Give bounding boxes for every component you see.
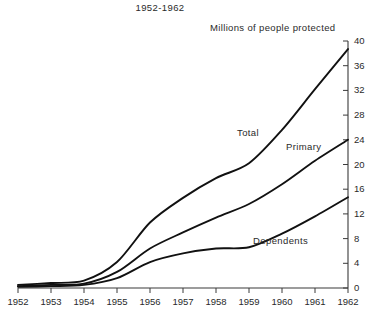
y-tick-label: 32 [354, 84, 365, 95]
series-annotation-total: Total [237, 127, 259, 138]
x-tick-label: 1952 [3, 296, 33, 307]
series-annotation-dependents: Dependents [253, 235, 308, 246]
y-tick-label: 16 [354, 183, 365, 194]
chart-axes [18, 41, 348, 293]
y-tick-label: 0 [354, 282, 359, 293]
y-tick-label: 28 [354, 109, 365, 120]
x-tick-label: 1961 [300, 296, 330, 307]
y-tick-label: 40 [354, 35, 365, 46]
chart-plot-area [0, 0, 383, 311]
x-tick-label: 1960 [267, 296, 297, 307]
y-tick-label: 36 [354, 60, 365, 71]
x-tick-label: 1956 [135, 296, 165, 307]
x-tick-label: 1953 [36, 296, 66, 307]
x-tick-label: 1954 [69, 296, 99, 307]
y-tick-label: 12 [354, 208, 365, 219]
y-tick-label: 8 [354, 233, 359, 244]
y-tick-label: 4 [354, 257, 359, 268]
y-tick-label: 24 [354, 134, 365, 145]
chart-series-lines [18, 49, 348, 287]
chart-page: 1952-1962 Millions of people protected 0… [0, 0, 383, 311]
x-axis-ticks [18, 288, 348, 293]
x-tick-label: 1962 [333, 296, 363, 307]
x-tick-label: 1957 [168, 296, 198, 307]
y-tick-label: 20 [354, 159, 365, 170]
x-tick-label: 1955 [102, 296, 132, 307]
y-axis-ticks [343, 41, 348, 288]
x-tick-label: 1958 [201, 296, 231, 307]
series-annotation-primary: Primary [286, 141, 322, 152]
x-tick-label: 1959 [234, 296, 264, 307]
series-line-total [18, 49, 348, 285]
series-line-primary [18, 140, 348, 286]
